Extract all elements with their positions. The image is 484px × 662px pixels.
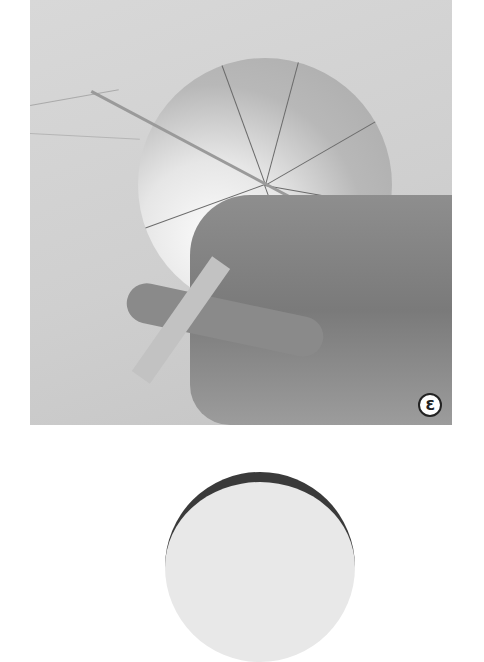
step-number-badge: 3 <box>418 393 442 417</box>
thread-line <box>30 133 140 140</box>
segment-line <box>222 65 266 185</box>
segment-line <box>265 62 299 185</box>
segment-line <box>265 122 375 186</box>
next-photo-ball <box>165 472 355 662</box>
step-photo <box>30 0 452 425</box>
